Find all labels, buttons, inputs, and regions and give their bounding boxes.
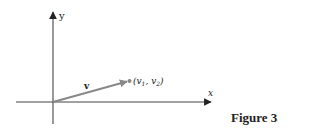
y-axis-label: y — [58, 10, 65, 21]
vector-label: v — [83, 81, 90, 91]
x-axis-label: x — [208, 88, 213, 98]
point-label: (v1, v2) — [133, 76, 164, 87]
point-marker — [128, 79, 132, 83]
figure-caption: Figure 3.6 — [231, 110, 278, 126]
point-label-close: ) — [159, 76, 164, 86]
vector-arrow — [53, 82, 127, 103]
